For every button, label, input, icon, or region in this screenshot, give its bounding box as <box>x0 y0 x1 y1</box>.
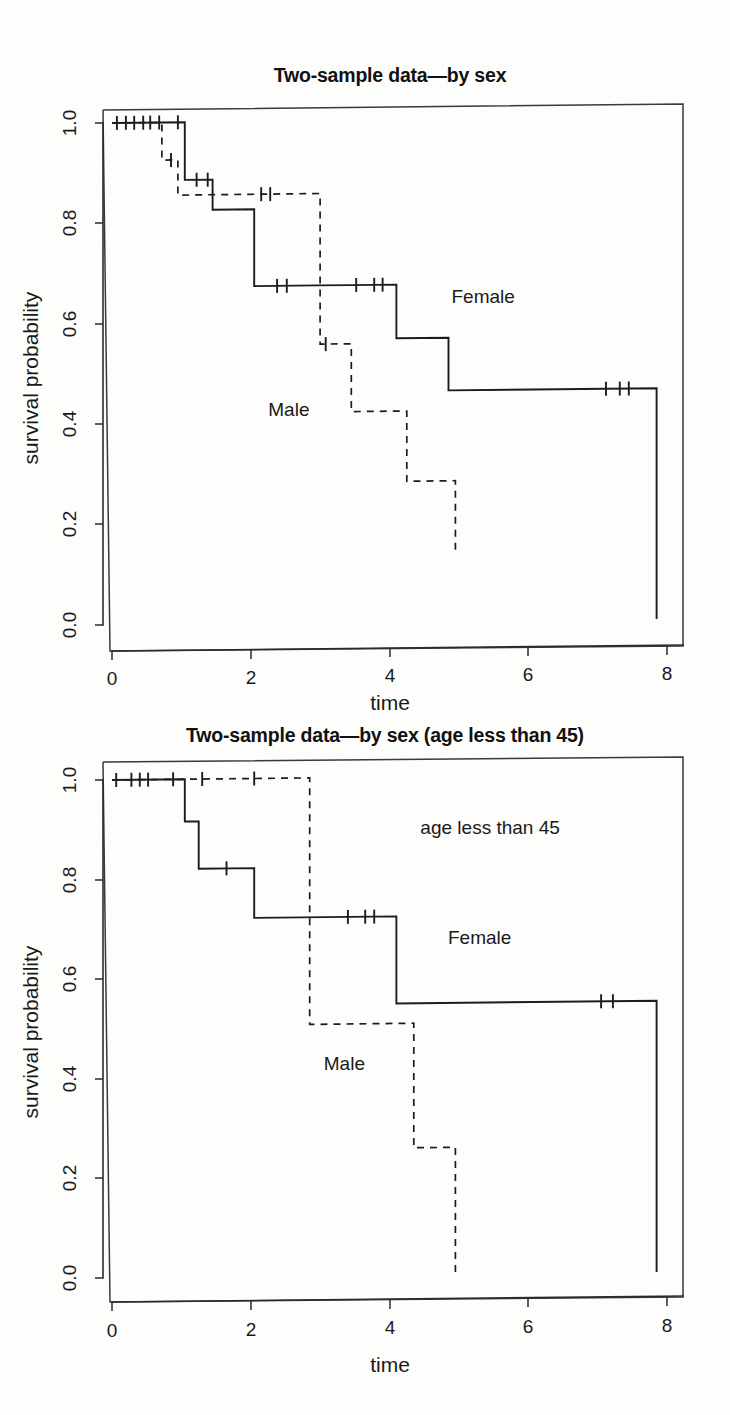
km-curve-male <box>112 778 455 1274</box>
plot-2-x-axis <box>112 1296 683 1302</box>
plot-1-x-ticks <box>112 646 667 660</box>
survival-plot-by-sex-age-under-45: Two-sample data—by sex (age less than 45… <box>0 700 730 1415</box>
plot-2-ylabel: survival probability <box>19 945 42 1118</box>
chart-2-title: Two-sample data—by sex (age less than 45… <box>186 724 584 746</box>
plot-1-curves <box>112 115 657 619</box>
y2-tick-2: 0.4 <box>59 1065 80 1092</box>
curve-label-male: Male <box>268 399 309 420</box>
x2-tick-2: 4 <box>385 1317 396 1338</box>
x-tick-2: 4 <box>385 665 396 686</box>
plot-1-ylabel: survival probability <box>19 291 42 464</box>
x-tick-0: 0 <box>107 668 118 689</box>
y2-tick-0: 0.0 <box>59 1265 80 1291</box>
survival-plot-1-svg: Two-sample data—by sex 0.0 0.2 0.4 0.6 <box>0 0 730 710</box>
y2-tick-1: 0.2 <box>59 1165 80 1191</box>
plot-1-y-ticks <box>95 123 103 625</box>
plot-2-curves <box>112 772 657 1275</box>
plot-2-frame <box>103 757 683 1302</box>
x-tick-1: 2 <box>246 667 257 688</box>
curve-label-age-less-than-45: age less than 45 <box>420 817 559 838</box>
x2-tick-3: 6 <box>523 1316 534 1337</box>
y2-tick-4: 0.8 <box>59 867 80 893</box>
y-tick-3: 0.6 <box>59 311 80 337</box>
x-tick-3: 6 <box>523 664 534 685</box>
plot-1-annotations: FemaleMale <box>268 286 515 420</box>
plot-1-frame <box>103 104 683 651</box>
y-tick-4: 0.8 <box>59 210 80 236</box>
curve-label-male: Male <box>324 1053 365 1074</box>
y2-tick-5: 1.0 <box>59 767 80 793</box>
y-tick-5: 1.0 <box>59 110 80 136</box>
x-tick-4: 8 <box>662 663 673 684</box>
figure-page: Two-sample data—by sex 0.0 0.2 0.4 0.6 <box>0 0 730 1415</box>
plot-2-x-ticklabels: 0 2 4 6 8 <box>107 1315 673 1341</box>
survival-plot-2-svg: Two-sample data—by sex (age less than 45… <box>0 700 730 1415</box>
curve-label-female: Female <box>452 286 515 307</box>
plot-2-annotations: age less than 45FemaleMale <box>324 817 560 1074</box>
chart-1-title: Two-sample data—by sex <box>274 64 507 86</box>
x2-tick-4: 8 <box>662 1315 673 1336</box>
plot-1-x-ticklabels: 0 2 4 6 8 <box>107 663 673 689</box>
plot-2-y-ticks <box>95 780 103 1278</box>
x2-tick-1: 2 <box>246 1319 257 1340</box>
survival-plot-by-sex: Two-sample data—by sex 0.0 0.2 0.4 0.6 <box>0 0 730 710</box>
x2-tick-0: 0 <box>107 1320 118 1341</box>
km-curve-female <box>112 122 657 619</box>
y-tick-0: 0.0 <box>59 612 80 638</box>
y-tick-1: 0.2 <box>59 511 80 537</box>
plot-2-xlabel: time <box>370 1353 410 1376</box>
plot-2-y-ticklabels: 0.0 0.2 0.4 0.6 0.8 1.0 <box>59 767 80 1291</box>
y2-tick-3: 0.6 <box>59 966 80 992</box>
km-curve-female <box>112 779 657 1272</box>
plot-1-y-ticklabels: 0.0 0.2 0.4 0.6 0.8 1.0 <box>59 110 80 638</box>
curve-label-female: Female <box>448 927 511 948</box>
y-tick-2: 0.4 <box>59 410 80 437</box>
plot-1-x-axis <box>112 645 683 651</box>
